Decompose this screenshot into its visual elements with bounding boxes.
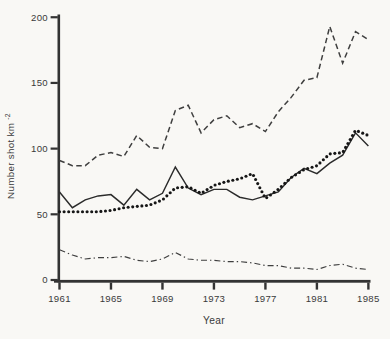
data-dot <box>294 173 297 176</box>
data-dot <box>86 210 89 213</box>
x-tick-label: 1965 <box>100 293 123 304</box>
data-dot <box>311 166 314 169</box>
data-dot <box>227 180 230 183</box>
x-tick-label: 1961 <box>48 293 71 304</box>
y-tick-label: 0 <box>42 274 48 285</box>
data-dot <box>81 210 84 213</box>
data-dot <box>342 150 345 153</box>
y-tick <box>51 213 58 215</box>
x-axis-title: Year <box>203 315 225 326</box>
data-dot <box>185 185 188 188</box>
data-dot <box>269 193 272 196</box>
data-dot <box>122 206 125 209</box>
x-tick <box>264 283 266 290</box>
data-dot <box>198 191 201 194</box>
data-dot <box>181 186 184 189</box>
data-dot <box>344 146 347 149</box>
data-dot <box>298 171 301 174</box>
data-dot <box>63 210 66 213</box>
data-dot <box>325 155 328 158</box>
data-dot <box>252 174 255 177</box>
y-axis-title: Number shot km -2 <box>4 113 16 199</box>
data-dot <box>280 185 283 188</box>
data-dot <box>231 179 234 182</box>
data-dot <box>149 203 152 206</box>
data-dot <box>113 208 116 211</box>
data-dot <box>302 169 305 172</box>
data-dot <box>95 210 98 213</box>
data-dot <box>249 173 252 176</box>
data-dot <box>361 132 364 135</box>
data-dot <box>353 130 356 133</box>
x-tick <box>110 283 112 290</box>
data-dot <box>127 206 130 209</box>
data-dot <box>222 181 225 184</box>
data-dot <box>260 190 263 193</box>
data-dot <box>176 186 179 189</box>
x-tick <box>58 283 60 290</box>
data-dot <box>209 186 212 189</box>
data-dot <box>254 178 257 181</box>
x-tick-label: 1969 <box>151 293 174 304</box>
x-tick <box>213 283 215 290</box>
number-shot-line-chart: 0501001502001961196519691973197719811985… <box>0 0 390 339</box>
data-dot <box>236 178 239 181</box>
data-dot <box>136 205 139 208</box>
data-dot <box>131 205 134 208</box>
data-dot <box>349 138 352 141</box>
data-dot <box>140 204 143 207</box>
data-dot <box>58 210 61 213</box>
data-dot <box>206 188 209 191</box>
data-dot <box>76 210 79 213</box>
data-dot <box>158 200 161 203</box>
y-tick-label: 50 <box>37 209 48 220</box>
data-dot <box>154 201 157 204</box>
x-tick-label: 1985 <box>357 293 380 304</box>
data-dot <box>287 179 290 182</box>
data-dot <box>357 130 360 133</box>
data-dot <box>108 209 111 212</box>
data-dot <box>67 210 70 213</box>
y-axis <box>58 15 61 283</box>
data-dot <box>202 190 205 193</box>
y-tick <box>51 279 58 281</box>
data-dot <box>218 182 221 185</box>
data-dot <box>265 196 268 199</box>
x-tick-label: 1977 <box>254 293 277 304</box>
data-dot <box>315 164 318 167</box>
data-dot <box>290 176 293 179</box>
data-dot <box>244 175 247 178</box>
figure-page: 0501001502001961196519691973197719811985… <box>0 0 390 339</box>
data-dot <box>322 158 325 161</box>
data-dot <box>333 152 336 155</box>
data-dot <box>172 188 175 191</box>
data-dot <box>256 182 259 185</box>
data-dot <box>306 167 309 170</box>
data-dot <box>240 176 243 179</box>
data-dot <box>273 191 276 194</box>
data-dot <box>283 182 286 185</box>
data-dot <box>145 204 148 207</box>
data-dot <box>99 210 102 213</box>
y-tick <box>51 82 58 84</box>
x-axis <box>54 280 371 283</box>
data-dot <box>189 187 192 190</box>
data-dot <box>346 142 349 145</box>
data-dot <box>90 210 93 213</box>
data-dot <box>351 134 354 137</box>
data-dot <box>169 191 172 194</box>
data-dot <box>194 189 197 192</box>
data-dot <box>263 194 266 197</box>
x-tick <box>316 283 318 290</box>
x-tick-label: 1973 <box>203 293 226 304</box>
y-tick-label: 150 <box>31 77 48 88</box>
x-tick <box>367 283 369 290</box>
data-dot <box>165 194 168 197</box>
data-dot <box>338 151 341 154</box>
data-dot <box>329 152 332 155</box>
data-dot <box>72 210 75 213</box>
data-dot <box>365 133 368 136</box>
data-dot <box>318 161 321 164</box>
y-tick <box>51 16 58 18</box>
x-tick-label: 1981 <box>306 293 329 304</box>
